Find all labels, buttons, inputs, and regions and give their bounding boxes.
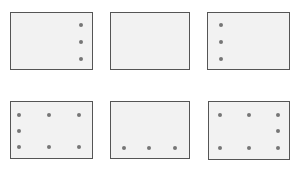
dot-marker [218, 146, 222, 150]
dot-marker [122, 146, 126, 150]
dot-marker [219, 40, 223, 44]
dot-marker [219, 23, 223, 27]
dot-marker [219, 57, 223, 61]
dot-marker [79, 57, 83, 61]
dot-marker [77, 145, 81, 149]
dot-marker [247, 146, 251, 150]
dot-marker [47, 113, 51, 117]
panel-4 [10, 101, 93, 159]
dot-marker [147, 146, 151, 150]
dot-marker [276, 146, 280, 150]
dot-marker [47, 145, 51, 149]
dot-marker [17, 145, 21, 149]
dot-marker [79, 40, 83, 44]
dot-marker [79, 23, 83, 27]
panel-5 [110, 101, 190, 159]
panel-2 [110, 12, 190, 70]
dot-marker [247, 113, 251, 117]
dot-marker [77, 113, 81, 117]
dot-marker [17, 113, 21, 117]
dot-marker [173, 146, 177, 150]
dot-marker [276, 129, 280, 133]
dot-marker [276, 113, 280, 117]
dot-marker [218, 113, 222, 117]
dot-marker [17, 129, 21, 133]
